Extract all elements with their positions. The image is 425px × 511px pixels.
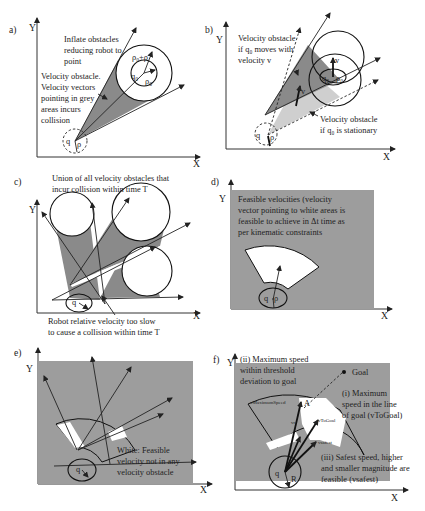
obstacle-circle-3 bbox=[122, 246, 172, 296]
v-safest-label: vsafest bbox=[318, 440, 332, 445]
goal-label: Goal bbox=[352, 368, 369, 377]
vo-text-1: Velocity obstacle. bbox=[41, 72, 101, 81]
stationary-text-2: if q₀ is stationary bbox=[320, 126, 378, 135]
goal-point bbox=[342, 370, 346, 374]
rho-label: ρ bbox=[274, 294, 278, 303]
x-axis-label: X bbox=[200, 484, 207, 495]
stationary-pointer bbox=[310, 112, 318, 116]
max-threshold-text-2: within threshold bbox=[240, 366, 295, 375]
max-line-text-1: (i) Maximum bbox=[342, 389, 387, 398]
moving-text-3: velocity v bbox=[238, 56, 272, 65]
r-label: R bbox=[291, 475, 297, 484]
max-threshold-text-3: deviation to goal bbox=[240, 377, 297, 386]
white-text-3: velocity obstacle bbox=[117, 468, 174, 477]
max-line-text-3: of goal (vToGoal) bbox=[342, 411, 403, 420]
max-threshold-text-1: (ii) Maximum speed bbox=[240, 355, 309, 364]
panel-c-label: c) bbox=[14, 176, 21, 188]
vo-text-4: areas incurs bbox=[41, 105, 81, 114]
x-axis-label: X bbox=[391, 492, 398, 503]
y-axis-label: Y bbox=[26, 363, 33, 374]
vo-text-5: collision bbox=[41, 116, 71, 125]
rho-label: ρ bbox=[77, 140, 81, 149]
q-label: q bbox=[66, 137, 71, 146]
feasible-text-1: Feasible velocities (velocity bbox=[238, 195, 333, 204]
x-axis-label: X bbox=[383, 151, 390, 162]
v-to-goal-label: vToGoal bbox=[318, 418, 336, 423]
rho-label: ρ bbox=[270, 133, 274, 142]
moving-text-1: Velocity obstacle bbox=[238, 34, 296, 43]
slow-text-1: Robot relative velocity too slow bbox=[48, 317, 156, 326]
union-text-1: Union of all velocity obstacles that bbox=[52, 174, 170, 183]
panel-b: b) Y X Velocity obstacle if q₀ moves wit… bbox=[205, 13, 395, 162]
q-label: q bbox=[256, 131, 261, 140]
panel-b-label: b) bbox=[205, 24, 213, 36]
q0-label: q₀ bbox=[322, 74, 329, 83]
q0-label: q₀ bbox=[131, 72, 138, 81]
vo-text-3: pointing in grey bbox=[41, 94, 95, 103]
panel-c: c) Y X Union of all velocity obstacles t… bbox=[14, 174, 200, 337]
rho0-label: ρ₀ bbox=[336, 74, 343, 83]
union-text-2: incur collision within time T bbox=[52, 185, 148, 194]
panel-f: f) Y X (ii) Maximum speed within thresho… bbox=[213, 354, 410, 503]
feasible-text-2: vector pointing to white areas is bbox=[238, 206, 345, 215]
v-r-label: vr bbox=[291, 420, 296, 425]
obstacle-circle-1 bbox=[50, 192, 94, 236]
point-a-label: A bbox=[304, 399, 310, 408]
white-text-1: White: Feasible bbox=[117, 446, 170, 455]
y-axis-label: Y bbox=[29, 204, 36, 215]
panel-a-label: a) bbox=[9, 24, 16, 36]
panel-a: a) Y X Inflate obstacles reducing robot … bbox=[9, 18, 200, 169]
inflate-text-1: Inflate obstacles bbox=[64, 35, 119, 44]
robot-radius bbox=[79, 303, 88, 309]
feasible-text-4: per kinematic constraints bbox=[238, 228, 322, 237]
x-axis-label: X bbox=[193, 310, 200, 321]
v-label-obstacle: v bbox=[335, 56, 340, 65]
rho0-label: ρ₀ bbox=[145, 77, 152, 86]
white-text-2: velocity not in any bbox=[117, 457, 180, 466]
y-axis-label: Y bbox=[216, 34, 223, 45]
stationary-text-1: Velocity obstacle bbox=[320, 115, 378, 124]
v-maximum-speed-label: vMaximumSpeed bbox=[250, 400, 286, 405]
inflate-text-3: point bbox=[64, 57, 82, 66]
panel-d-label: d) bbox=[211, 176, 219, 188]
panel-f-label: f) bbox=[213, 354, 219, 366]
panel-d: d) Y X Feasible velocities (velocity vec… bbox=[211, 176, 392, 321]
max-line-text-2: speed in the line bbox=[342, 400, 397, 409]
y-axis-label: Y bbox=[29, 22, 36, 33]
x-axis-label: X bbox=[193, 158, 200, 169]
y-axis-label: Y bbox=[219, 193, 226, 204]
panel-e: e) Y X White: Feasible velocity not in a… bbox=[14, 347, 212, 495]
rho-sum-label: ρ₀+ρ bbox=[132, 53, 148, 62]
vo-text-2: Velocity vectors bbox=[41, 83, 95, 92]
feasible-text-3: feasible to achieve in Δt time as bbox=[238, 217, 345, 226]
moving-text-2: if q₀ moves with bbox=[238, 45, 294, 54]
safest-text-1: (iii) Safest speed, higher bbox=[321, 453, 403, 462]
inflate-text-2: reducing robot to bbox=[64, 46, 122, 55]
x-axis-label: X bbox=[381, 310, 388, 321]
y-axis-label: Y bbox=[227, 357, 234, 368]
slow-text-2: to cause a collision within time T bbox=[48, 328, 160, 337]
panel-e-label: e) bbox=[14, 347, 21, 359]
safest-text-2: and smaller magnitude are bbox=[321, 464, 410, 473]
safest-text-3: feasible (vsafest) bbox=[321, 475, 378, 484]
